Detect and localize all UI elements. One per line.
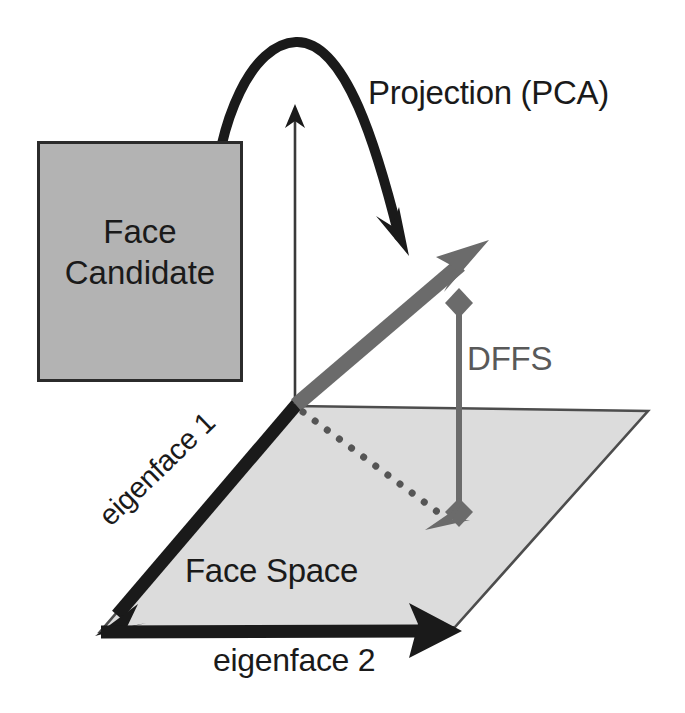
eigenface-2-label: eigenface 2 — [213, 644, 375, 676]
face-space-label: Face Space — [185, 554, 358, 587]
face-candidate-line-1: Face — [40, 212, 240, 253]
face-candidate-label: Face Candidate — [40, 212, 240, 294]
face-candidate-line-2: Candidate — [40, 253, 240, 294]
face-candidate-box: Face Candidate — [37, 141, 243, 382]
vertical-axis-arrow — [285, 104, 305, 404]
projection-pca-label: Projection (PCA) — [368, 76, 609, 109]
dffs-top-diamond — [445, 288, 473, 318]
dffs-label: DFFS — [467, 342, 552, 375]
pca-face-space-diagram: Face Candidate Projection (PCA) DFFS Fac… — [0, 0, 685, 713]
